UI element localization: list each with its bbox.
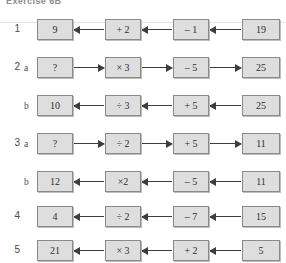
operation-box[interactable]: ÷ 2 — [105, 133, 141, 154]
machine-row: 2a?× 3– 525 — [0, 57, 286, 80]
value-box[interactable]: 25 — [242, 95, 280, 116]
flow-arrow-left — [74, 105, 104, 106]
arrow-head-icon — [209, 178, 216, 186]
value-box[interactable]: 11 — [242, 171, 280, 192]
function-machine-worksheet: 19+ 2– 1192a?× 3– 525b10÷ 3+ 5253a?÷ 2+ … — [0, 0, 286, 263]
value-box[interactable]: ? — [37, 133, 73, 154]
operation-box[interactable]: ÷ 2 — [105, 206, 141, 227]
flow-arrow-left — [210, 250, 241, 251]
operation-box[interactable]: + 5 — [173, 133, 209, 154]
flow-arrow-left — [210, 105, 241, 106]
row-number-label: 5 — [8, 244, 20, 256]
operation-box[interactable]: ×2 — [105, 171, 141, 192]
flow-arrow-left — [210, 216, 241, 217]
flow-arrow-right — [210, 143, 241, 144]
value-box[interactable]: 19 — [242, 19, 280, 40]
arrow-head-icon — [141, 26, 148, 34]
arrow-head-icon — [141, 247, 148, 255]
operation-box[interactable]: + 5 — [173, 95, 209, 116]
row-part-label: b — [24, 176, 34, 188]
value-box[interactable]: 15 — [242, 206, 280, 227]
arrow-head-icon — [235, 64, 242, 72]
row-number-label: 1 — [8, 23, 20, 35]
arrow-head-icon — [98, 64, 105, 72]
arrow-head-icon — [166, 64, 173, 72]
operation-box[interactable]: + 2 — [173, 240, 209, 261]
flow-arrow-left — [74, 29, 104, 30]
arrow-head-icon — [73, 26, 80, 34]
arrow-head-icon — [141, 178, 148, 186]
arrow-head-icon — [73, 178, 80, 186]
operation-box[interactable]: – 7 — [173, 206, 209, 227]
operation-box[interactable]: + 2 — [105, 19, 141, 40]
arrow-head-icon — [235, 140, 242, 148]
flow-arrow-left — [74, 250, 104, 251]
arrow-head-icon — [73, 102, 80, 110]
value-box[interactable]: 9 — [37, 19, 73, 40]
machine-row: 521× 3+ 25 — [0, 240, 286, 263]
flow-arrow-left — [142, 250, 172, 251]
flow-arrow-right — [210, 67, 241, 68]
flow-arrow-left — [210, 181, 241, 182]
flow-arrow-right — [142, 67, 172, 68]
value-box[interactable]: 21 — [37, 240, 73, 261]
flow-arrow-left — [210, 29, 241, 30]
arrow-head-icon — [209, 26, 216, 34]
arrow-head-icon — [73, 247, 80, 255]
flow-arrow-right — [142, 143, 172, 144]
operation-box[interactable]: – 5 — [173, 57, 209, 78]
machine-row: 19+ 2– 119 — [0, 19, 286, 42]
row-part-label: b — [24, 100, 34, 112]
arrow-head-icon — [141, 213, 148, 221]
operation-box[interactable]: – 1 — [173, 19, 209, 40]
flow-arrow-left — [142, 216, 172, 217]
value-box[interactable]: 4 — [37, 206, 73, 227]
arrow-head-icon — [209, 213, 216, 221]
row-number-label: 4 — [8, 210, 20, 222]
flow-arrow-left — [74, 181, 104, 182]
value-box[interactable]: 25 — [242, 57, 280, 78]
machine-row: 3a?÷ 2+ 511 — [0, 133, 286, 156]
row-number-label: 3 — [8, 137, 20, 149]
machine-row: b10÷ 3+ 525 — [0, 95, 286, 118]
arrow-head-icon — [166, 140, 173, 148]
machine-row: b12×2– 511 — [0, 171, 286, 194]
flow-arrow-left — [142, 29, 172, 30]
value-box[interactable]: 12 — [37, 171, 73, 192]
value-box[interactable]: 10 — [37, 95, 73, 116]
flow-arrow-left — [142, 105, 172, 106]
arrow-head-icon — [141, 102, 148, 110]
operation-box[interactable]: – 5 — [173, 171, 209, 192]
value-box[interactable]: ? — [37, 57, 73, 78]
flow-arrow-right — [74, 67, 104, 68]
value-box[interactable]: 11 — [242, 133, 280, 154]
flow-arrow-left — [142, 181, 172, 182]
machine-row: 44÷ 2– 715 — [0, 206, 286, 229]
flow-arrow-left — [74, 216, 104, 217]
row-part-label: a — [24, 138, 34, 150]
operation-box[interactable]: ÷ 3 — [105, 95, 141, 116]
operation-box[interactable]: × 3 — [105, 240, 141, 261]
row-part-label: a — [24, 62, 34, 74]
flow-arrow-right — [74, 143, 104, 144]
arrow-head-icon — [73, 213, 80, 221]
arrow-head-icon — [98, 140, 105, 148]
arrow-head-icon — [209, 247, 216, 255]
value-box[interactable]: 5 — [242, 240, 280, 261]
operation-box[interactable]: × 3 — [105, 57, 141, 78]
arrow-head-icon — [209, 102, 216, 110]
row-number-label: 2 — [8, 61, 20, 73]
